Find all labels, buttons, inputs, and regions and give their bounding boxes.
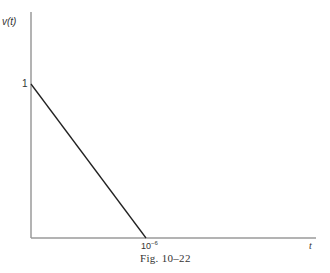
x-tick-exponent: −6 [151,240,158,246]
y-tick-1: 1 [22,78,28,89]
x-tick-1e-6: 10−6 [141,240,158,251]
caption-fig: Fig. [140,252,159,264]
x-axis-label: t [309,240,312,251]
x-tick-base: 10 [141,241,151,251]
y-axis-label: v(t) [2,16,16,27]
caption-number: 10–22 [162,252,191,264]
plot-area [0,0,330,273]
figure-caption: Fig. 10–22 [140,252,191,264]
figure: v(t) 1 10−6 t Fig. 10–22 [0,0,330,273]
ramp-line [31,84,146,238]
